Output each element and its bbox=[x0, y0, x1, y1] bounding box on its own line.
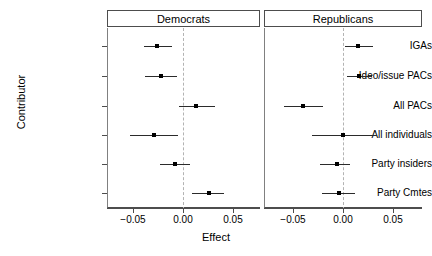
point-democrats-party-cmtes bbox=[207, 191, 211, 195]
x-tick-label-rep-neg005: −0.05 bbox=[273, 215, 313, 225]
x-tick-mark-rep-005 bbox=[393, 209, 394, 213]
point-democrats-all-individuals bbox=[152, 133, 156, 137]
chart-root: Contributor Effect Democrats Republicans… bbox=[0, 0, 432, 256]
x-tick-label-rep-000: 0.00 bbox=[323, 215, 363, 225]
x-tick-mark-rep-neg005 bbox=[293, 209, 294, 213]
x-tick-label-dem-neg005: −0.05 bbox=[113, 215, 153, 225]
point-republicans-ideo-issue-pacs bbox=[357, 74, 361, 78]
x-tick-mark-dem-neg005 bbox=[133, 209, 134, 213]
zero-line-democrats bbox=[183, 28, 184, 210]
y-axis-title: Contributor bbox=[15, 37, 27, 167]
point-democrats-party-insiders bbox=[173, 162, 177, 166]
x-tick-label-rep-005: 0.05 bbox=[373, 215, 413, 225]
panel-strip-republicans-label: Republicans bbox=[313, 13, 374, 25]
panel-strip-democrats-label: Democrats bbox=[157, 13, 210, 25]
y-tick-label-all-pacs: All PACs bbox=[336, 101, 432, 111]
panel-strip-republicans: Republicans bbox=[264, 10, 422, 27]
y-tick-label-party-insiders: Party insiders bbox=[336, 159, 432, 169]
point-republicans-igas bbox=[356, 44, 360, 48]
y-tick-mark-igas bbox=[102, 46, 107, 47]
panel-strip-democrats: Democrats bbox=[107, 10, 260, 27]
point-republicans-party-insiders bbox=[335, 162, 339, 166]
point-democrats-all-pacs bbox=[194, 104, 198, 108]
y-tick-mark-party-insiders bbox=[102, 164, 107, 165]
x-tick-label-dem-005: 0.05 bbox=[213, 215, 253, 225]
zero-line-republicans bbox=[343, 28, 344, 210]
y-tick-mark-all-pacs bbox=[102, 106, 107, 107]
x-tick-mark-rep-000 bbox=[343, 209, 344, 213]
y-tick-mark-ideo-issue-pacs bbox=[102, 76, 107, 77]
point-republicans-all-individuals bbox=[341, 133, 345, 137]
point-democrats-ideo-issue-pacs bbox=[159, 74, 163, 78]
y-tick-mark-party-cmtes bbox=[102, 193, 107, 194]
x-axis-title: Effect bbox=[0, 231, 432, 243]
x-tick-label-dem-000: 0.00 bbox=[163, 215, 203, 225]
y-tick-mark-all-individuals bbox=[102, 135, 107, 136]
x-tick-mark-dem-000 bbox=[183, 209, 184, 213]
x-tick-mark-dem-005 bbox=[233, 209, 234, 213]
point-republicans-all-pacs bbox=[301, 104, 305, 108]
point-republicans-party-cmtes bbox=[337, 191, 341, 195]
point-democrats-igas bbox=[155, 44, 159, 48]
